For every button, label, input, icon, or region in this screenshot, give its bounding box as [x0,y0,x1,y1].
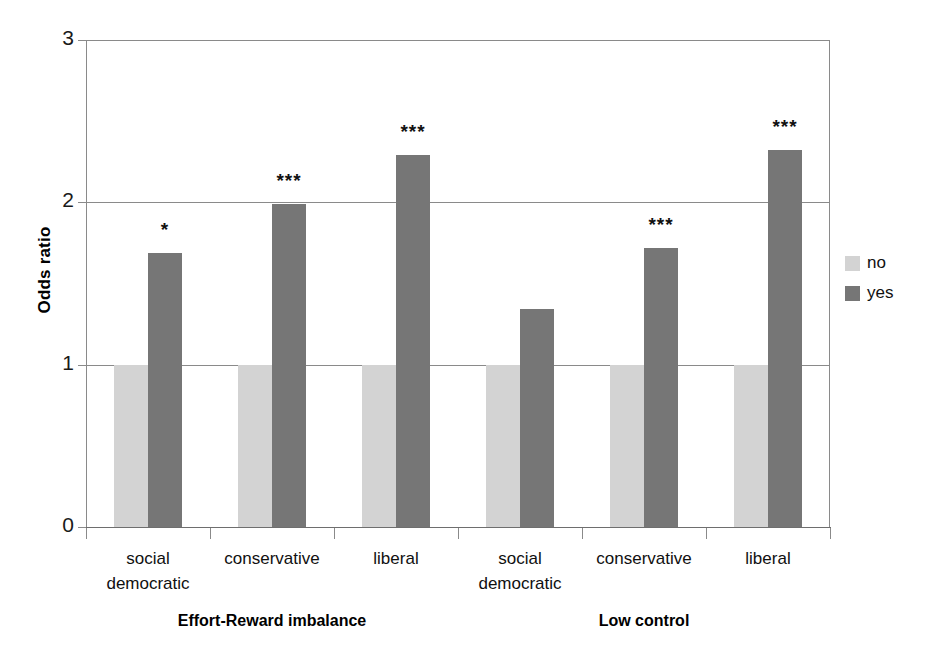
x-category-line: conservative [210,546,334,571]
x-category-label-4: conservative [582,546,706,571]
y-tick-label-0: 0 [44,513,74,537]
legend-swatch-yes [845,286,860,301]
x-tick-mark-0 [210,528,211,539]
x-tick-mark-4 [706,528,707,539]
y-tick-label-2: 2 [44,188,74,212]
x-category-line: liberal [706,546,830,571]
x-category-label-0: socialdemocratic [86,546,210,596]
x-category-line: democratic [86,571,210,596]
x-tick-mark-2 [458,528,459,539]
x-category-label-5: liberal [706,546,830,571]
x-category-line: social [458,546,582,571]
y-tick-mark-1 [78,365,86,366]
bar-no-0 [114,365,148,527]
y-tick-mark-0 [78,527,86,528]
bar-yes-4 [644,248,678,527]
group-label-0: Effort-Reward imbalance [86,612,458,630]
y-tick-mark-2 [78,202,86,203]
y-axis-label: Odds ratio [35,200,55,340]
x-category-label-3: socialdemocratic [458,546,582,596]
x-tick-mark-3 [582,528,583,539]
x-tick-mark-origin [86,528,87,539]
y-tick-label-3: 3 [44,26,74,50]
y-tick-mark-3 [78,40,86,41]
legend-label-yes: yes [867,283,893,303]
legend-item-no: no [845,248,925,278]
x-category-line: liberal [334,546,458,571]
bar-yes-3 [520,309,554,527]
x-category-line: social [86,546,210,571]
bar-yes-0 [148,253,182,527]
bar-yes-5 [768,150,802,527]
x-category-line: conservative [582,546,706,571]
bar-yes-2 [396,155,430,527]
legend-swatch-no [845,256,860,271]
legend-item-yes: yes [845,278,925,308]
bar-no-4 [610,365,644,527]
legend: noyes [845,248,925,308]
y-tick-label-1: 1 [44,351,74,375]
significance-marker-4: *** [622,214,700,236]
bar-no-3 [486,365,520,527]
odds-ratio-bar-chart: Odds ratio 0123 socialdemocraticconserva… [0,0,927,660]
significance-marker-2: *** [374,121,452,143]
cut-off-chart-title [0,0,927,1]
significance-marker-5: *** [746,116,824,138]
bar-no-5 [734,365,768,527]
x-category-label-1: conservative [210,546,334,571]
significance-marker-1: *** [250,170,328,192]
legend-label-no: no [867,253,886,273]
x-category-label-2: liberal [334,546,458,571]
x-tick-mark-1 [334,528,335,539]
bar-no-1 [238,365,272,527]
x-tick-mark-5 [830,528,831,539]
plot-area [86,40,830,527]
significance-marker-0: * [126,219,204,241]
bar-no-2 [362,365,396,527]
bar-yes-1 [272,204,306,527]
x-category-line: democratic [458,571,582,596]
group-label-1: Low control [458,612,830,630]
